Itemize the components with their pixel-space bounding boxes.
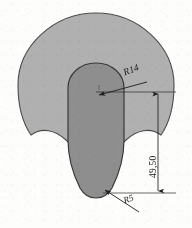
dimension-label-length: 49,50 — [148, 156, 158, 178]
technical-drawing — [0, 0, 192, 228]
inner-teardrop-outline — [68, 63, 124, 198]
drawing-canvas: R14 49,50 R5 — [0, 0, 192, 228]
